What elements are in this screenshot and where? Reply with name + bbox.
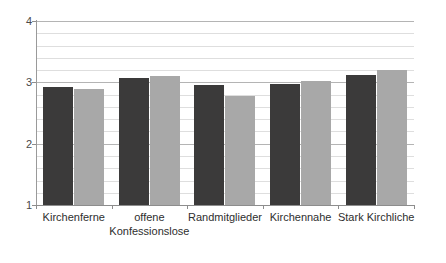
x-axis-tick-mark	[263, 205, 264, 209]
bar-group	[263, 21, 339, 205]
bar-chart: 1234 Kirchenferneoffene KonfessionsloseR…	[0, 0, 446, 263]
bar-series-1	[346, 75, 376, 205]
y-axis-tick-label: 3	[6, 77, 32, 88]
y-axis-tick-label: 4	[6, 16, 32, 27]
bar-group	[36, 21, 112, 205]
x-axis-tick-mark	[338, 205, 339, 209]
bar-group	[187, 21, 263, 205]
bar-series-2	[377, 70, 407, 205]
y-axis-tick-label: 1	[6, 200, 32, 211]
y-axis-ticks: 1234	[0, 21, 32, 205]
x-axis-category-label: Stark Kirchliche	[330, 210, 422, 224]
bar-group	[338, 21, 414, 205]
bar-series-1	[119, 78, 149, 205]
bar-series-1	[270, 84, 300, 205]
x-axis-tick-mark	[414, 205, 415, 209]
y-axis-tick-label: 2	[6, 138, 32, 149]
x-axis-line	[36, 205, 414, 206]
bar-group	[112, 21, 188, 205]
plot-area	[36, 21, 414, 205]
x-axis-tick-mark	[187, 205, 188, 209]
y-axis-line	[36, 20, 37, 206]
y-axis-tick-mark	[32, 21, 36, 22]
y-axis-tick-mark	[32, 144, 36, 145]
x-axis-tick-mark	[36, 205, 37, 209]
bar-series-1	[43, 87, 73, 205]
bar-series-1	[194, 85, 224, 205]
bar-series-2	[150, 76, 180, 205]
bar-series-2	[301, 81, 331, 205]
bar-series-2	[225, 96, 255, 205]
y-axis-tick-mark	[32, 82, 36, 83]
x-axis-labels: Kirchenferneoffene KonfessionsloseRandmi…	[36, 210, 414, 260]
bar-series-2	[74, 89, 104, 206]
x-axis-tick-mark	[112, 205, 113, 209]
